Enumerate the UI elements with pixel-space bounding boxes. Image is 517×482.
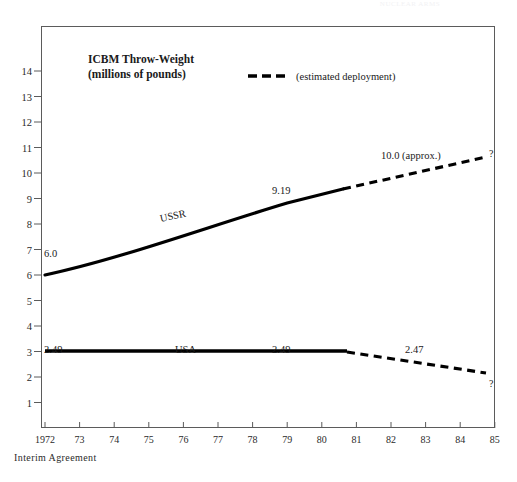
x-tick-label-75: 75 [144, 434, 154, 445]
x-tick-label-79: 79 [282, 434, 292, 445]
data-label-usa-1972: 2.49 [44, 344, 62, 355]
y-tick-label-6: 6 [8, 270, 32, 281]
dashed-line-icon [246, 69, 292, 83]
ussr-dashed-estimate-line [343, 157, 486, 189]
x-tick-label-84: 84 [455, 434, 465, 445]
icbm-throw-weight-figure: NUCLEAR ARMS [0, 0, 517, 482]
legend-label-estimated-deployment: (estimated deployment) [296, 71, 395, 82]
y-tick-label-11: 11 [8, 142, 32, 153]
y-tick-label-5: 5 [8, 295, 32, 306]
data-label-ussr-1972: 6.0 [44, 248, 57, 259]
x-tick-label-1972: 1972 [35, 434, 55, 445]
chart-title-line2: (millions of pounds) [88, 67, 194, 82]
y-tick-label-7: 7 [8, 244, 32, 255]
y-tick-label-4: 4 [8, 321, 32, 332]
series-label-usa: USA [175, 344, 196, 355]
chart-legend: (estimated deployment) [246, 69, 395, 83]
chart-title-line1: ICBM Throw-Weight [88, 52, 194, 67]
data-label-usa-1979: 2.49 [272, 344, 290, 355]
data-label-usa-estimate: 2.47 [405, 344, 423, 355]
y-tick-label-9: 9 [8, 193, 32, 204]
x-axis-ticks [45, 422, 495, 428]
chart-title: ICBM Throw-Weight (millions of pounds) [88, 52, 194, 82]
usa-dashed-estimate-line [347, 352, 486, 373]
question-mark-usa-endpoint: ? [489, 378, 493, 389]
y-tick-label-2: 2 [8, 372, 32, 383]
data-label-ussr-estimate: 10.0 (approx.) [381, 150, 441, 161]
footnote-interim-agreement: Interim Agreement [14, 452, 97, 463]
x-tick-label-85: 85 [490, 434, 500, 445]
y-axis-ticks [34, 71, 41, 403]
x-tick-label-78: 78 [248, 434, 258, 445]
ussr-solid-line [45, 189, 343, 275]
y-tick-label-3: 3 [8, 346, 32, 357]
x-tick-label-77: 77 [213, 434, 223, 445]
x-tick-label-82: 82 [386, 434, 396, 445]
question-mark-ussr-endpoint: ? [489, 148, 493, 159]
y-tick-label-10: 10 [8, 168, 32, 179]
x-tick-label-76: 76 [178, 434, 188, 445]
y-tick-label-13: 13 [8, 91, 32, 102]
y-tick-label-8: 8 [8, 219, 32, 230]
y-tick-label-14: 14 [8, 66, 32, 77]
x-tick-label-83: 83 [421, 434, 431, 445]
x-tick-label-74: 74 [109, 434, 119, 445]
x-tick-label-81: 81 [351, 434, 361, 445]
x-tick-label-80: 80 [317, 434, 327, 445]
y-tick-label-12: 12 [8, 117, 32, 128]
x-tick-label-73: 73 [75, 434, 85, 445]
y-tick-label-1: 1 [8, 397, 32, 408]
data-label-ussr-1979: 9.19 [272, 185, 290, 196]
